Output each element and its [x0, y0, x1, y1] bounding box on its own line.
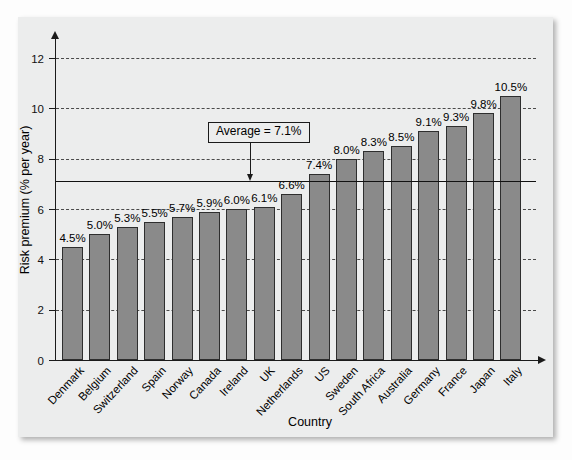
average-annotation-stem: [250, 143, 251, 176]
bar[interactable]: [254, 207, 275, 360]
x-axis-title-text: Country: [288, 415, 332, 429]
bar[interactable]: [281, 194, 302, 360]
bar-value-label: 10.5%: [491, 82, 531, 94]
y-axis-tick-label: 4: [38, 254, 44, 266]
x-axis-line: [55, 360, 539, 361]
y-axis-tick-label: 2: [38, 304, 44, 316]
bar-value-label: 9.8%: [464, 99, 504, 111]
bar[interactable]: [473, 113, 494, 360]
bar-value-label: 7.4%: [299, 160, 339, 172]
bar-value-label: 9.3%: [436, 112, 476, 124]
bar[interactable]: [309, 174, 330, 360]
y-axis-tick-label: 8: [38, 153, 44, 165]
y-axis-tick-label: 6: [38, 204, 44, 216]
average-annotation-box: Average = 7.1%: [208, 122, 310, 143]
y-axis-tick-label: 10: [31, 103, 44, 115]
bar[interactable]: [363, 151, 384, 360]
average-annotation-arrow-icon: [247, 174, 253, 181]
y-axis-arrow-icon: [51, 31, 59, 39]
y-axis-line: [55, 38, 56, 360]
y-axis-tick-label: 12: [31, 53, 44, 65]
bar[interactable]: [500, 96, 521, 360]
bar[interactable]: [172, 217, 193, 360]
bar[interactable]: [391, 146, 412, 360]
x-axis-arrow-icon: [538, 356, 546, 364]
average-reference-line: [56, 181, 536, 182]
figure-root: 0246810124.5%Denmark5.0%Belgium5.3%Switz…: [0, 0, 572, 460]
gridline: [56, 58, 536, 59]
bar[interactable]: [226, 209, 247, 360]
bar-value-label: 6.1%: [244, 193, 284, 205]
bar[interactable]: [62, 247, 83, 360]
y-axis-title: Risk premium (% per year): [18, 126, 32, 275]
bar-value-label: 8.5%: [381, 132, 421, 144]
bar[interactable]: [418, 131, 439, 360]
bar[interactable]: [89, 234, 110, 360]
bar[interactable]: [199, 212, 220, 360]
x-axis-title: Country: [0, 415, 572, 429]
bar[interactable]: [336, 159, 357, 360]
bar-value-label: 4.5%: [53, 233, 93, 245]
y-axis-tick-label: 0: [38, 355, 44, 367]
bar[interactable]: [144, 222, 165, 360]
bar[interactable]: [117, 227, 138, 360]
bar[interactable]: [446, 126, 467, 360]
